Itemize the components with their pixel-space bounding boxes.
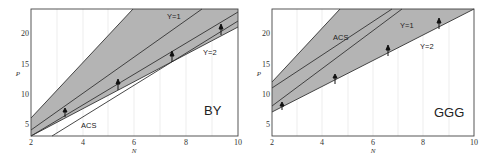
ytick: 20 — [262, 29, 270, 38]
xtick: 4 — [320, 138, 324, 147]
xtick: 6 — [132, 138, 136, 147]
chart-by: 2 4 6 8 10 5 10 15 20 N P Y=1 Y=2 ACS BY — [0, 0, 247, 155]
ytick: 5 — [25, 120, 29, 129]
ytick: 10 — [262, 90, 270, 99]
ytick: 15 — [21, 60, 29, 69]
ytick: 5 — [266, 120, 270, 129]
y-axis-label: P — [15, 70, 21, 78]
xtick: 8 — [421, 138, 425, 147]
annotation-acs: ACS — [81, 121, 96, 130]
annotation-y2: Y=2 — [203, 48, 217, 57]
xtick: 2 — [29, 138, 33, 147]
chart-panel-ggg: 2 4 6 8 10 5 10 15 20 N P ACS Y=1 Y=2 GG… — [247, 0, 494, 155]
xtick: 4 — [81, 138, 85, 147]
y-axis-label: P — [256, 70, 262, 78]
xtick: 8 — [184, 138, 188, 147]
ytick: 10 — [21, 90, 29, 99]
x-axis-label: N — [131, 147, 137, 155]
ytick: 20 — [21, 29, 29, 38]
panel-label-by: BY — [204, 103, 222, 118]
annotation-y2: Y=2 — [420, 42, 434, 51]
annotation-y1: Y=1 — [167, 12, 181, 21]
annotation-y1: Y=1 — [400, 21, 414, 30]
ytick: 15 — [262, 60, 270, 69]
x-axis-label: N — [370, 147, 376, 155]
chart-ggg: 2 4 6 8 10 5 10 15 20 N P ACS Y=1 Y=2 GG… — [247, 0, 494, 155]
panel-label-ggg: GGG — [434, 105, 464, 120]
annotation-acs: ACS — [333, 33, 348, 42]
xtick: 10 — [234, 138, 242, 147]
xtick: 10 — [470, 138, 478, 147]
xtick: 2 — [270, 138, 274, 147]
chart-panel-by: 2 4 6 8 10 5 10 15 20 N P Y=1 Y=2 ACS BY — [0, 0, 247, 155]
xtick: 6 — [371, 138, 375, 147]
